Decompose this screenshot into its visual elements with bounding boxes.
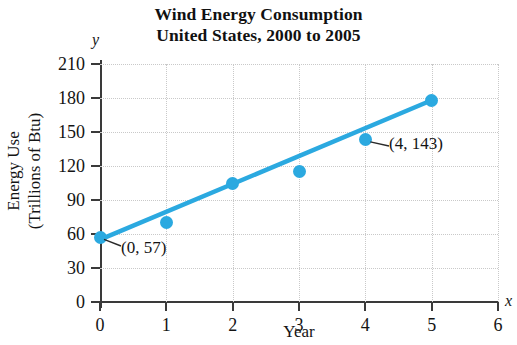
- trend-line: [100, 100, 432, 239]
- annotation-point-4-143: (4, 143): [389, 135, 443, 152]
- leader-line-0-57: [104, 239, 121, 246]
- chart-overlay-lines: [0, 0, 517, 345]
- leader-line-4-143: [370, 142, 389, 146]
- annotation-point-0-57: (0, 57): [121, 239, 166, 256]
- wind-energy-consumption-chart: Wind Energy Consumption United States, 2…: [0, 0, 517, 345]
